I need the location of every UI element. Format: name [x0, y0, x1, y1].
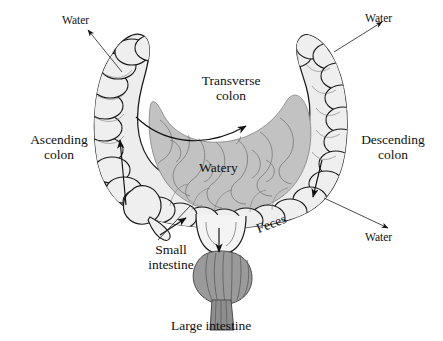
label-water-bottom-right: Water — [365, 231, 392, 244]
label-water-top-left: Water — [62, 14, 89, 27]
ascending-colon-line-2: colon — [44, 147, 74, 162]
label-water-top-right: Water — [365, 12, 392, 25]
figure-caption: Large intestine — [171, 318, 251, 333]
water-top-right-arrow — [334, 22, 382, 52]
label-watery: Watery — [199, 160, 238, 175]
transverse-colon-line-1: Transverse — [202, 73, 261, 88]
water-bottom-right-arrow — [324, 198, 388, 228]
small-intestine-line-2: intestine — [148, 257, 194, 272]
small-intestine-line-1: Small — [155, 242, 187, 257]
label-transverse-colon: Transverse colon — [186, 74, 276, 104]
ascending-colon-line-1: Ascending — [30, 132, 88, 147]
label-ascending-colon: Ascending colon — [18, 133, 100, 163]
large-intestine-figure: Water Water Water Transverse colon Ascen… — [0, 0, 443, 341]
descending-colon-line-1: Descending — [361, 132, 425, 147]
label-small-intestine: Small intestine — [130, 243, 212, 273]
descending-colon-line-2: colon — [378, 147, 408, 162]
label-descending-colon: Descending colon — [349, 133, 437, 163]
transverse-colon-line-2: colon — [216, 88, 246, 103]
